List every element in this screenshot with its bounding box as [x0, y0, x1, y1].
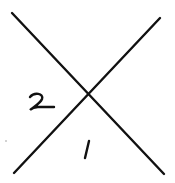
stray-speck: [5, 140, 7, 142]
